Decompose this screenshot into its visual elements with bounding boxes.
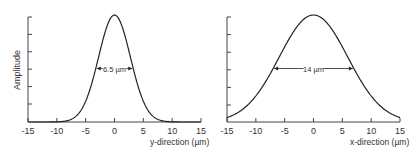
- x-tick-label: -10: [249, 126, 262, 136]
- x-tick-label: 0: [112, 126, 117, 136]
- x-tick-label: 15: [395, 126, 405, 136]
- chart-left: -15-10-5051015y-direction (µm)Amplitude6…: [12, 15, 209, 147]
- x-tick-label: -5: [82, 126, 90, 136]
- x-tick-label: -15: [220, 126, 233, 136]
- fwhm-label: 6.5 µm: [103, 65, 126, 74]
- arrowhead-right-icon: [128, 67, 132, 71]
- x-axis-label: y-direction (µm): [150, 137, 209, 147]
- x-axis-label: x-direction (µm): [350, 137, 409, 147]
- x-tick-label: 0: [311, 126, 316, 136]
- x-tick-label: 10: [366, 126, 376, 136]
- x-tick-label: 10: [167, 126, 177, 136]
- chart-right: -15-10-5051015x-direction (µm)14 µm: [220, 15, 409, 147]
- x-tick-label: 15: [196, 126, 206, 136]
- x-tick-label: -15: [21, 126, 34, 136]
- x-tick-label: -10: [50, 126, 63, 136]
- x-tick-label: -5: [281, 126, 289, 136]
- arrowhead-left-icon: [274, 67, 278, 71]
- y-axis-label: Amplitude: [12, 50, 22, 90]
- arrowhead-left-icon: [97, 67, 101, 71]
- x-tick-label: 5: [340, 126, 345, 136]
- figure: -15-10-5051015y-direction (µm)Amplitude6…: [0, 0, 416, 152]
- x-tick-label: 5: [141, 126, 146, 136]
- fwhm-label: 14 µm: [303, 65, 324, 74]
- arrowhead-right-icon: [349, 67, 353, 71]
